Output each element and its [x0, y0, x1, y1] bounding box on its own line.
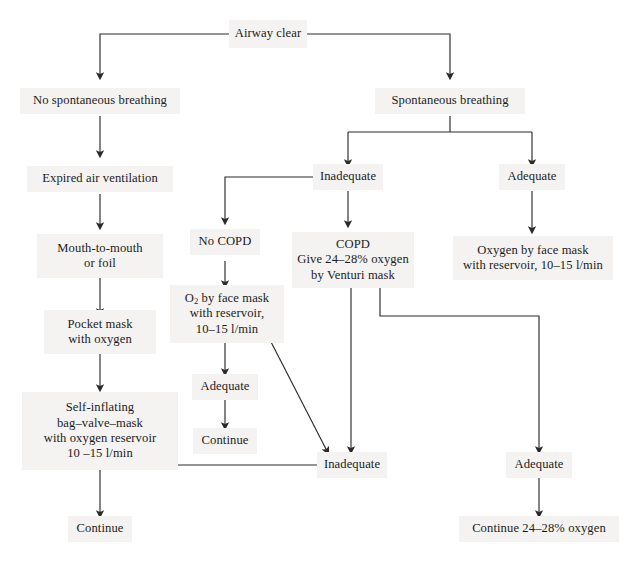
node-inadequate-bottom-label: Inadequate: [324, 457, 380, 472]
node-pocket-mask-line2: with oxygen: [68, 332, 132, 347]
node-self-inflating-line4: 10 –15 l/min: [67, 446, 133, 461]
edge-o2mask-to-inadequate-diagonal: [269, 338, 327, 451]
node-spontaneous-breathing[interactable]: Spontaneous breathing: [375, 88, 525, 114]
node-pocket-mask-line1: Pocket mask: [67, 317, 132, 332]
node-self-inflating[interactable]: Self-inflating bag–valve–mask with oxyge…: [22, 392, 178, 470]
node-adequate-bottom-right-label: Adequate: [514, 457, 563, 472]
node-self-inflating-line2: bag–valve–mask: [57, 416, 143, 431]
node-o2-face-mask-mid-line3: 10–15 l/min: [196, 322, 258, 337]
node-no-spontaneous-breathing[interactable]: No spontaneous breathing: [20, 88, 180, 114]
node-copd-line3: by Venturi mask: [311, 268, 395, 283]
node-no-spontaneous-breathing-label: No spontaneous breathing: [33, 93, 167, 108]
node-copd[interactable]: COPD Give 24–28% oxygen by Venturi mask: [292, 232, 414, 288]
node-o2-face-mask-mid-line1: O2 by face mask: [185, 291, 269, 306]
node-expired-air-ventilation[interactable]: Expired air ventilation: [27, 166, 173, 192]
node-self-inflating-line3: with oxygen reservoir: [44, 431, 157, 446]
node-continue-left-bottom-label: Continue: [77, 521, 124, 536]
node-oxygen-face-mask-right-line1: Oxygen by face mask: [477, 243, 588, 258]
node-copd-line2: Give 24–28% oxygen: [297, 252, 409, 267]
node-no-copd[interactable]: No COPD: [190, 229, 260, 255]
node-oxygen-face-mask-right[interactable]: Oxygen by face mask with reservoir, 10–1…: [453, 236, 613, 280]
node-continue-24-28-oxygen[interactable]: Continue 24–28% oxygen: [459, 516, 619, 542]
node-spontaneous-breathing-label: Spontaneous breathing: [391, 93, 508, 108]
node-no-copd-label: No COPD: [199, 234, 252, 249]
node-adequate-mid[interactable]: Adequate: [192, 374, 258, 400]
node-o2-face-mask-mid-line2: with reservoir,: [190, 306, 264, 321]
node-expired-air-ventilation-label: Expired air ventilation: [42, 171, 158, 186]
edge-spontaneous-split: [348, 116, 532, 132]
node-adequate-bottom-right[interactable]: Adequate: [506, 452, 572, 478]
edge-airway-to-no-spontaneous: [100, 34, 229, 76]
node-continue-mid-label: Continue: [202, 433, 249, 448]
node-oxygen-face-mask-right-line2: with reservoir, 10–15 l/min: [463, 258, 603, 273]
node-self-inflating-line1: Self-inflating: [66, 400, 135, 415]
node-inadequate-top[interactable]: Inadequate: [313, 164, 383, 190]
flowchart-canvas: Airway clear No spontaneous breathing Sp…: [0, 0, 637, 563]
node-copd-line1: COPD: [336, 237, 370, 252]
node-continue-left-bottom[interactable]: Continue: [68, 516, 132, 542]
edge-copd-to-adequate-bottom: [380, 288, 539, 450]
edge-airway-to-spontaneous: [307, 34, 450, 76]
node-inadequate-top-label: Inadequate: [320, 169, 376, 184]
node-pocket-mask[interactable]: Pocket mask with oxygen: [44, 310, 156, 354]
node-mouth-to-mouth-line2: or foil: [84, 256, 116, 271]
node-airway-clear[interactable]: Airway clear: [229, 20, 307, 48]
node-adequate-top-right[interactable]: Adequate: [499, 164, 565, 190]
edge-inadequate-to-nocopd: [225, 177, 319, 221]
node-mouth-to-mouth-line1: Mouth-to-mouth: [57, 241, 142, 256]
node-adequate-mid-label: Adequate: [200, 379, 249, 394]
node-mouth-to-mouth[interactable]: Mouth-to-mouth or foil: [37, 234, 163, 278]
node-o2-face-mask-mid[interactable]: O2 by face mask with reservoir, 10–15 l/…: [170, 285, 284, 343]
node-continue-24-28-oxygen-label: Continue 24–28% oxygen: [472, 521, 606, 536]
node-airway-clear-label: Airway clear: [235, 26, 302, 41]
node-adequate-top-right-label: Adequate: [507, 169, 556, 184]
node-continue-mid[interactable]: Continue: [193, 428, 257, 454]
node-inadequate-bottom[interactable]: Inadequate: [317, 452, 387, 478]
